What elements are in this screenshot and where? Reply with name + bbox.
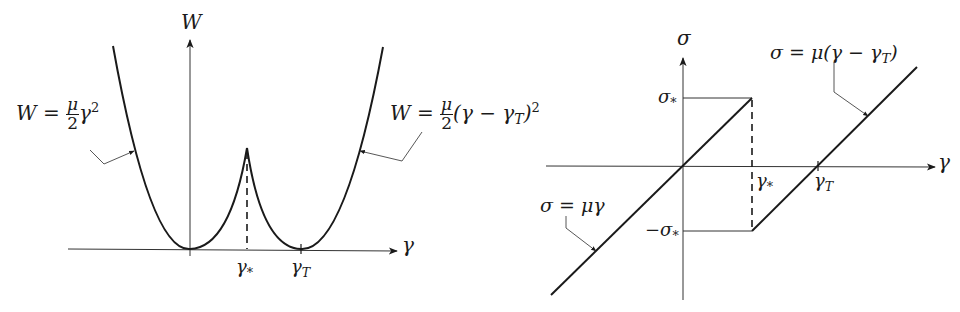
upper-line-equation: σ = μ(γ − γT) xyxy=(770,43,898,65)
lower-line-leader xyxy=(566,216,596,251)
right-curve-leader xyxy=(360,132,422,161)
left-curve-leader xyxy=(90,150,134,164)
left-x-axis-label: γ xyxy=(402,235,414,255)
tick-label-gamma-star: γ* xyxy=(236,258,253,279)
upper-line-leader xyxy=(834,62,868,116)
left-x-axis xyxy=(68,249,397,251)
right-x-axis xyxy=(546,166,935,167)
right-y-axis-label: σ xyxy=(677,28,691,48)
energy-curve-left-well xyxy=(113,46,247,249)
left-y-axis-label: W xyxy=(181,12,202,32)
lower-line-equation: σ = μγ xyxy=(540,196,605,215)
left-well-equation: W = μ2γ2 xyxy=(16,96,99,133)
energy-curve-right-well xyxy=(247,47,383,249)
right-stress-plot xyxy=(546,58,935,300)
tick-label-neg-sigma-star: −σ* xyxy=(645,221,679,242)
left-energy-plot xyxy=(68,40,422,256)
stress-line-upper-phase xyxy=(752,67,917,231)
tick-label-gamma-star-right: γ* xyxy=(756,172,773,193)
right-well-equation: W = μ2(γ − γT)2 xyxy=(390,96,540,133)
tick-label-gamma-T: γT xyxy=(291,258,310,279)
tick-label-sigma-star: σ* xyxy=(658,88,677,109)
tick-label-gamma-T-right: γT xyxy=(814,172,833,193)
right-x-axis-label: γ xyxy=(938,152,950,172)
